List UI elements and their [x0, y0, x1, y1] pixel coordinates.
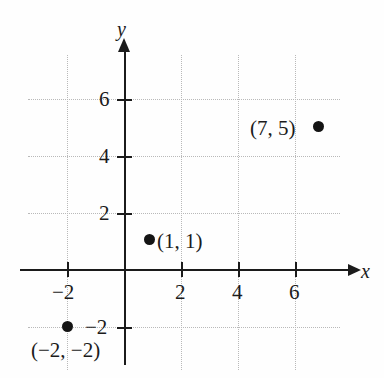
x-axis-label: x	[361, 261, 370, 281]
y-tick-mark-4	[117, 156, 132, 158]
point-marker-neg2-neg2	[62, 321, 73, 332]
gridline-horizontal-y-2	[28, 213, 340, 214]
gridline-horizontal-y-neg2	[28, 327, 340, 328]
x-tick-mark-neg2	[67, 262, 69, 277]
y-axis-line	[124, 50, 126, 365]
gridline-horizontal-y-6	[28, 99, 340, 100]
y-axis-arrow-icon	[118, 38, 130, 52]
point-marker-7-5	[313, 121, 324, 132]
coordinate-plane-figure: y x −2 2 4 6 6 4 2 −2 (7, 5) (1, 1) (−2,…	[0, 0, 384, 378]
y-tick-mark-2	[117, 213, 132, 215]
x-tick-label-2: 2	[175, 282, 186, 303]
x-tick-label-4: 4	[232, 282, 243, 303]
x-tick-label-neg2: −2	[52, 282, 74, 303]
x-tick-mark-4	[238, 262, 240, 277]
gridline-horizontal-y-4	[28, 156, 340, 157]
point-label-1-1: (1, 1)	[157, 231, 203, 252]
y-tick-label-2: 2	[99, 203, 110, 224]
point-marker-1-1	[144, 234, 155, 245]
y-tick-label-4: 4	[99, 146, 110, 167]
point-label-7-5: (7, 5)	[250, 118, 296, 139]
y-tick-label-6: 6	[99, 89, 110, 110]
x-tick-label-6: 6	[289, 282, 300, 303]
y-tick-label-neg2: −2	[85, 317, 107, 338]
x-tick-mark-2	[181, 262, 183, 277]
y-tick-mark-neg2	[117, 327, 132, 329]
x-axis-line	[20, 269, 350, 271]
x-axis-arrow-icon	[348, 264, 361, 276]
x-tick-mark-6	[295, 262, 297, 277]
point-label-neg2-neg2: (−2, −2)	[31, 340, 100, 361]
y-tick-mark-6	[117, 99, 132, 101]
y-axis-label: y	[117, 19, 126, 39]
